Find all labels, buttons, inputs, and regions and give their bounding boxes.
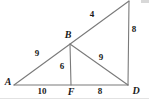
segment-A-to-top: [14, 1, 129, 85]
length-label-FD: 8: [98, 87, 103, 96]
length-label-AF: 10: [38, 87, 47, 96]
length-label-BD: 9: [99, 53, 104, 62]
length-label-AB: 9: [35, 49, 40, 58]
length-label-D-top: 8: [132, 25, 137, 34]
vertex-label-B: B: [65, 30, 72, 40]
geometry-figure: ABFD94698108: [0, 0, 149, 99]
segment-D-to-top: [128, 1, 129, 85]
vertex-label-D: D: [132, 86, 139, 96]
length-label-B-top: 4: [90, 10, 95, 19]
segment-B-to-D: [70, 44, 128, 85]
segments-group: [14, 1, 129, 85]
length-label-BF: 6: [60, 62, 65, 71]
geometry-svg: [0, 0, 149, 99]
segment-B-to-F: [70, 44, 71, 85]
vertex-label-F: F: [68, 87, 75, 97]
vertex-label-A: A: [5, 77, 12, 87]
